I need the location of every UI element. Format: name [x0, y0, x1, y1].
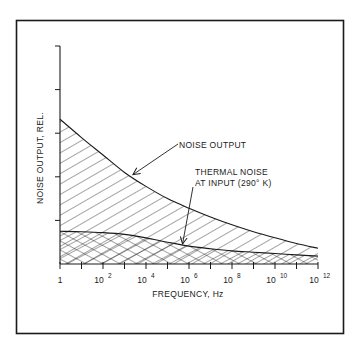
x-axis-label: FREQUENCY, Hz — [152, 289, 223, 299]
x-tick-label-exponent: 2 — [108, 272, 112, 279]
annotation-noise-output-arrow — [133, 144, 178, 175]
annotation-thermal-line1: THERMAL NOISE — [195, 167, 268, 177]
x-tick-label: 10 — [223, 275, 233, 285]
y-axis-ticks — [55, 46, 60, 220]
x-tick-label-exponent: 6 — [194, 272, 198, 279]
x-tick-label: 10 — [94, 275, 104, 285]
y-axis-label: NOISE OUTPUT, REL. — [35, 112, 45, 204]
x-tick-label-exponent: 10 — [280, 272, 288, 279]
annotation-noise-output: NOISE OUTPUT — [179, 140, 246, 150]
x-tick-label-exponent: 8 — [237, 272, 241, 279]
x-tick-label: 10 — [180, 275, 190, 285]
x-tick-label: 10 — [266, 275, 276, 285]
annotation-thermal-line2: AT INPUT (290° K) — [195, 178, 272, 188]
x-tick-label: 10 — [309, 275, 319, 285]
x-tick-label: 10 — [137, 275, 147, 285]
x-tick-label: 1 — [58, 275, 63, 285]
x-axis-tick-labels: 110210410610810101012 — [58, 272, 331, 285]
x-tick-label-exponent: 12 — [323, 272, 331, 279]
x-tick-label-exponent: 4 — [151, 272, 155, 279]
chart-figure: 110210410610810101012 FREQUENCY, Hz NOIS… — [0, 0, 357, 345]
